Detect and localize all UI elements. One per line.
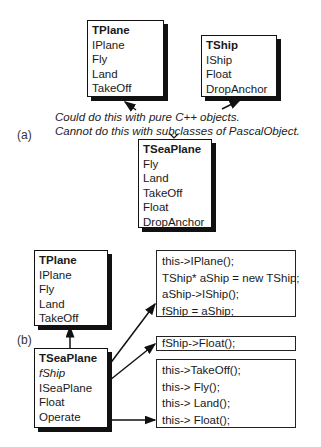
method: IShip xyxy=(206,53,272,68)
code-line: aShip->IShip(); xyxy=(162,286,290,303)
method: TakeOff xyxy=(39,311,103,326)
code-line: this-> Land(); xyxy=(162,395,290,412)
part-a-label: (a) xyxy=(17,128,32,142)
class-title: TPlane xyxy=(39,253,103,268)
method: DropAnchor xyxy=(206,82,272,97)
code-line: this->TakeOff(); xyxy=(162,362,290,379)
note-line: Cannot do this with subclasses of Pascal… xyxy=(55,124,300,138)
method: IPlane xyxy=(39,268,103,283)
code-line: this-> Float(); xyxy=(162,412,290,429)
note-line: Could do this with pure C++ objects. xyxy=(55,110,300,124)
part-b-label: (b) xyxy=(17,333,32,347)
method: Fly xyxy=(92,52,159,67)
class-title: TSeaPlane xyxy=(143,142,207,157)
operate-code-box: this->TakeOff(); this-> Fly(); this-> La… xyxy=(156,359,296,428)
method: TakeOff xyxy=(143,186,207,201)
class-title: TSeaPlane xyxy=(39,351,103,366)
tship-class-a: TShip IShip Float DropAnchor xyxy=(201,35,277,97)
tplane-class-a: TPlane IPlane Fly Land TakeOff xyxy=(87,20,164,97)
method: ISeaPlane xyxy=(39,381,103,396)
method: Float xyxy=(206,67,272,82)
method: Land xyxy=(92,67,159,82)
method: IPlane xyxy=(92,38,159,53)
iseaplane-code-box: this->IPlane(); TShip* aShip = new TShip… xyxy=(156,250,296,317)
class-title: TPlane xyxy=(92,23,159,38)
code-line: fShip = aShip; xyxy=(162,303,290,320)
method: Fly xyxy=(39,282,103,297)
method: Float xyxy=(143,200,207,215)
tseaplane-class-a: TSeaPlane Fly Land TakeOff Float DropAnc… xyxy=(138,139,212,228)
method: DropAnchor xyxy=(143,215,207,230)
field-fship: fShip xyxy=(39,366,103,381)
code-line: this->IPlane(); xyxy=(162,253,290,270)
float-code-box: fShip->Float(); xyxy=(156,336,296,351)
class-title: TShip xyxy=(206,38,272,53)
method: Float xyxy=(39,395,103,410)
method: Operate xyxy=(39,410,103,425)
method: TakeOff xyxy=(92,81,159,96)
method: Land xyxy=(143,171,207,186)
code-line: this-> Fly(); xyxy=(162,379,290,396)
method: Land xyxy=(39,297,103,312)
multiple-inheritance-note: Could do this with pure C++ objects. Can… xyxy=(55,110,300,138)
code-line: TShip* aShip = new TShip; xyxy=(162,270,290,287)
tseaplane-class-b: TSeaPlane fShip ISeaPlane Float Operate xyxy=(34,348,108,428)
tplane-class-b: TPlane IPlane Fly Land TakeOff xyxy=(34,250,108,326)
method: Fly xyxy=(143,157,207,172)
code-line: fShip->Float(); xyxy=(162,337,290,349)
